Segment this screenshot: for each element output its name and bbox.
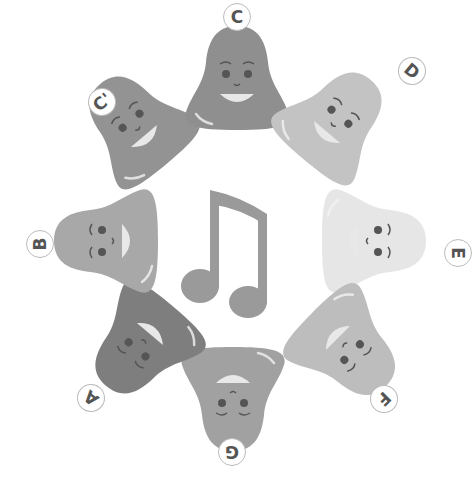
note-label-g: G [218,438,246,466]
note-label-b: B [26,230,54,258]
bell-icon [320,186,430,296]
bell-icon [50,186,160,296]
bell-b [50,186,160,296]
bell-e [320,186,430,296]
note-label-e: E [444,239,472,267]
note-label-c: C [223,3,251,31]
music-note-icon [180,178,285,318]
note-label-d: D [392,51,431,90]
bell-ring-illustration: C'CDEFGAB [0,0,475,489]
